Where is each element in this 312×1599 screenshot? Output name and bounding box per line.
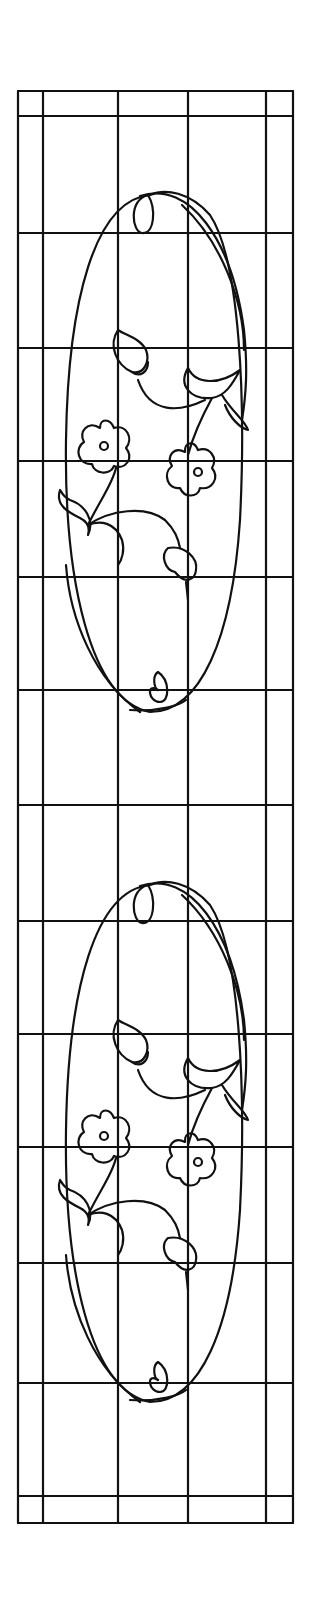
loop-bottom (150, 672, 167, 702)
flower-center (194, 468, 202, 476)
bud (164, 1238, 196, 1270)
leaf (184, 368, 240, 398)
stem (188, 398, 212, 455)
stem (188, 1088, 212, 1145)
flower-center (194, 1158, 202, 1166)
inner-arc (182, 205, 244, 350)
flower-center (100, 1132, 108, 1140)
leaf (59, 490, 90, 535)
loop-top (134, 195, 153, 233)
frame-grid (18, 91, 293, 1523)
inner-arc (182, 895, 244, 1040)
flower (78, 1111, 129, 1163)
flower (167, 1133, 215, 1185)
lower-medallion (59, 882, 248, 1402)
flower (167, 443, 215, 495)
leaf (59, 1180, 90, 1225)
oval-outline (66, 192, 242, 712)
oval-outline (66, 882, 242, 1402)
stained-glass-pattern (0, 0, 312, 1599)
flower (78, 421, 129, 473)
loop-bottom (150, 1362, 167, 1392)
leaf (184, 1058, 240, 1088)
upper-medallion (59, 192, 248, 712)
stem (88, 1201, 180, 1238)
stem (138, 1070, 205, 1098)
loop-top (134, 885, 153, 923)
stem (138, 380, 205, 408)
flower-center (100, 442, 108, 450)
bud (164, 548, 196, 580)
stem (88, 511, 180, 548)
